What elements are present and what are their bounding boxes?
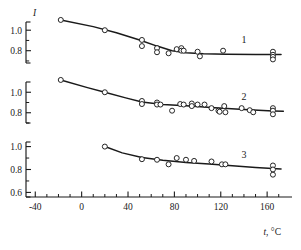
data-point xyxy=(195,102,200,107)
x-axis-tick-label: 160 xyxy=(260,202,275,212)
data-point xyxy=(58,17,63,22)
data-point xyxy=(221,48,226,53)
data-point xyxy=(223,162,228,167)
data-point xyxy=(270,57,275,62)
data-point xyxy=(155,50,160,55)
data-point xyxy=(217,109,222,114)
data-point xyxy=(102,28,107,33)
chart-plot: -40040801201601.00.811.00.821.00.80.63It… xyxy=(0,0,301,250)
data-point xyxy=(139,102,144,107)
fit-curve-1 xyxy=(61,20,281,55)
data-point xyxy=(170,108,175,113)
x-axis-title: t, °C xyxy=(263,227,281,237)
data-point xyxy=(223,110,228,115)
x-axis-tick-label: 80 xyxy=(170,202,180,212)
data-point xyxy=(192,158,197,163)
data-point xyxy=(209,159,214,164)
data-point xyxy=(222,104,227,109)
x-axis-tick-label: -40 xyxy=(29,202,42,212)
data-point xyxy=(174,156,179,161)
y-axis-tick-label: 1.0 xyxy=(10,142,22,152)
data-point xyxy=(166,162,171,167)
figure-canvas: -40040801201601.00.811.00.821.00.80.63It… xyxy=(0,0,301,250)
data-point xyxy=(58,77,63,82)
data-point xyxy=(139,37,144,42)
data-point xyxy=(155,157,160,162)
data-point xyxy=(181,102,186,107)
data-point xyxy=(251,110,256,115)
x-axis-tick-label: 120 xyxy=(214,202,229,212)
curve-label-2: 2 xyxy=(241,91,246,102)
y-axis-tick-label: 0.6 xyxy=(10,188,22,198)
data-point xyxy=(158,102,163,107)
data-point xyxy=(166,51,171,56)
data-point xyxy=(197,54,202,59)
y-axis-tick-label: 0.8 xyxy=(10,108,22,118)
data-point xyxy=(139,44,144,49)
data-point xyxy=(139,157,144,162)
data-point xyxy=(239,106,244,111)
data-point xyxy=(181,48,186,53)
data-point xyxy=(270,172,275,177)
fit-curve-3 xyxy=(105,147,281,169)
y-axis-tick-label: 1.0 xyxy=(10,26,22,36)
data-point xyxy=(209,106,214,111)
fit-curve-2 xyxy=(61,80,284,111)
data-point xyxy=(189,104,194,109)
curve-label-3: 3 xyxy=(241,149,246,160)
x-axis-tick-label: 0 xyxy=(79,202,84,212)
y-axis-title: I xyxy=(32,8,37,18)
data-point xyxy=(270,167,275,172)
y-axis-tick-label: 0.8 xyxy=(10,165,22,175)
y-axis-tick-label: 0.8 xyxy=(10,46,22,56)
data-point xyxy=(102,90,107,95)
data-point xyxy=(270,112,275,117)
y-axis-tick-label: 1.0 xyxy=(10,88,22,98)
curve-label-1: 1 xyxy=(241,34,246,45)
curves-layer xyxy=(61,20,284,169)
data-point xyxy=(102,144,107,149)
x-axis-tick-label: 40 xyxy=(123,202,133,212)
data-point xyxy=(183,157,188,162)
data-point xyxy=(202,102,207,107)
